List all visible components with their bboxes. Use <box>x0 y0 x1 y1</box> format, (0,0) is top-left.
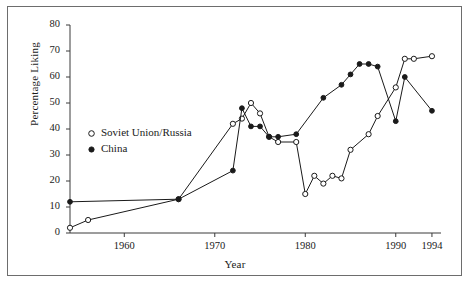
y-tick-30: 30 <box>34 148 60 159</box>
x-tick-1980: 1980 <box>284 240 326 251</box>
y-tick-60: 60 <box>34 70 60 81</box>
y-tick-80: 80 <box>34 18 60 29</box>
x-tick-1970: 1970 <box>194 240 236 251</box>
y-tick-70: 70 <box>34 44 60 55</box>
x-tick-1994: 1994 <box>411 240 453 251</box>
y-tick-40: 40 <box>34 122 60 133</box>
y-tick-50: 50 <box>34 96 60 107</box>
y-tick-10: 10 <box>34 200 60 211</box>
x-axis-title: Year <box>175 258 295 270</box>
filled-circle-icon <box>84 140 98 156</box>
open-circle-icon <box>84 124 98 140</box>
legend-item-soviet-union-russia: Soviet Union/Russia <box>84 124 192 140</box>
legend-label-soviet-union-russia: Soviet Union/Russia <box>98 124 192 140</box>
legend-label-china: China <box>98 140 127 156</box>
legend-item-china: China <box>84 140 192 156</box>
chart-legend: Soviet Union/Russia China <box>84 124 192 156</box>
y-tick-0: 0 <box>34 226 60 237</box>
y-tick-20: 20 <box>34 174 60 185</box>
x-tick-1960: 1960 <box>103 240 145 251</box>
